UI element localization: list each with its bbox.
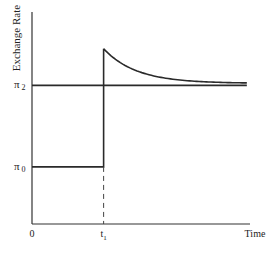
y-tick-label: π2 <box>14 78 26 92</box>
tick-labels: 0t1π2π0 <box>14 78 107 242</box>
series-group <box>32 49 247 167</box>
chart: Exchange Rate Time 0t1π2π0 <box>0 0 277 255</box>
x-tick-label: 0 <box>30 228 35 239</box>
x-tick-label: t1 <box>100 228 107 242</box>
y-tick-label: π0 <box>14 160 26 174</box>
y-axis-label: Exchange Rate <box>10 5 22 71</box>
x-axis-label: Time <box>245 228 266 239</box>
exchange-rate-path-line <box>32 49 247 167</box>
